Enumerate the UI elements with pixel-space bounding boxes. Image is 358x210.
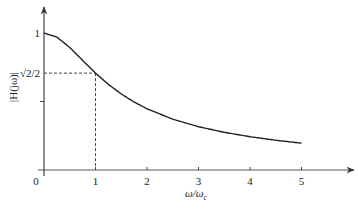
cutoff-guide-lines <box>44 73 96 170</box>
y-tick-label: 1 <box>35 27 41 39</box>
x-tick-label: 1 <box>93 175 99 187</box>
x-tick-label: 5 <box>299 175 305 187</box>
frequency-response-chart: 012345 1√2/2 ω/ωc |H(jω)| <box>0 0 358 210</box>
axes <box>38 7 354 176</box>
x-axis-label: ω/ωc <box>185 187 208 202</box>
y-axis-label: |H(jω)| <box>7 72 20 102</box>
magnitude-curve <box>44 33 302 143</box>
y-tick-label: √2/2 <box>20 67 40 79</box>
y-ticks: 1√2/2 <box>20 27 44 102</box>
x-tick-label: 2 <box>144 175 150 187</box>
x-tick-label: 3 <box>196 175 202 187</box>
x-tick-label: 4 <box>247 175 253 187</box>
x-tick-label: 0 <box>33 175 39 187</box>
